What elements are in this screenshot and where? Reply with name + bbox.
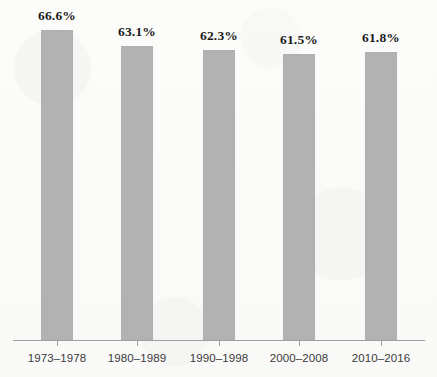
bar-value-label: 62.3% (179, 28, 259, 44)
bar-value-label: 66.6% (17, 8, 97, 24)
bar (203, 50, 235, 340)
x-axis-tick (299, 341, 300, 346)
bar (121, 46, 153, 340)
x-axis-tick (57, 341, 58, 346)
x-axis-tick (219, 341, 220, 346)
bar (283, 54, 315, 340)
bar (365, 52, 397, 340)
x-axis-tick-label: 2010–2016 (331, 352, 431, 364)
bar-chart: 66.6% 63.1% 62.3% 61.5% 61.8% 1973–1978 … (0, 0, 437, 377)
plot-area: 66.6% 63.1% 62.3% 61.5% 61.8% 1973–1978 … (0, 0, 437, 377)
bar-value-label: 61.5% (259, 32, 339, 48)
x-axis-tick (137, 341, 138, 346)
bar (41, 30, 73, 340)
x-axis-tick (381, 341, 382, 346)
bar-value-label: 61.8% (341, 30, 421, 46)
bar-value-label: 63.1% (97, 24, 177, 40)
